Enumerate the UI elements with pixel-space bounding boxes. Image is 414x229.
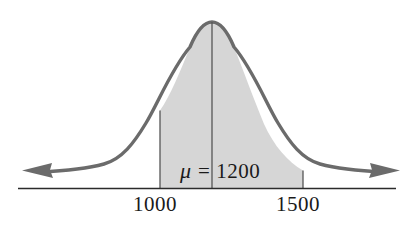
mean-symbol: μ (180, 158, 191, 184)
mean-annotation: μ = 1200 (180, 158, 260, 184)
axis-tick-label-1500: 1500 (276, 192, 320, 217)
arrow-right-icon (369, 163, 400, 178)
axis-tick-label-1000: 1000 (133, 192, 177, 217)
distribution-chart-svg (0, 0, 414, 229)
arrow-left-icon (22, 163, 53, 178)
mean-value-text: = 1200 (198, 159, 260, 184)
normal-curve-figure: μ = 1200 1000 1500 (0, 0, 414, 229)
